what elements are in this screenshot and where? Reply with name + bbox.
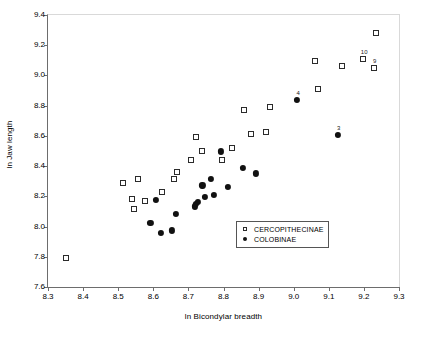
y-axis-label: ln Jaw length: [0, 0, 18, 288]
data-point-label: 9: [373, 58, 376, 64]
x-axis-tick-label: 9.1: [323, 292, 334, 301]
x-axis-tick-mark: [399, 287, 400, 291]
x-axis-tick-mark: [294, 287, 295, 291]
data-point-cercopithecinae: [63, 255, 69, 261]
data-point-cercopithecinae: [248, 131, 254, 137]
data-point-cercopithecinae: [312, 58, 318, 64]
data-point-colobinae: [253, 170, 259, 176]
data-point-label: 4: [297, 90, 300, 96]
x-axis-tick-mark: [83, 287, 84, 291]
data-point-colobinae: [153, 197, 159, 203]
legend-entry-colobinae: COLOBINAE: [240, 234, 324, 244]
data-point-cercopithecinae: [159, 189, 165, 195]
data-point-cercopithecinae: [339, 63, 345, 69]
y-axis-tick-label: 8.2: [34, 191, 45, 200]
data-point-colobinae: [218, 148, 224, 154]
x-axis-tick-label: 8.3: [42, 292, 53, 301]
data-point-colobinae: [334, 132, 340, 138]
y-axis-tick-label: 9.0: [34, 70, 45, 79]
data-point-cercopithecinae: [241, 107, 247, 113]
x-axis-tick-label: 8.4: [78, 292, 89, 301]
x-axis-tick-label: 8.8: [218, 292, 229, 301]
x-axis-tick-label: 8.6: [148, 292, 159, 301]
data-point-colobinae: [225, 183, 231, 189]
y-axis-tick-label: 8.0: [34, 222, 45, 231]
x-axis-tick-mark: [364, 287, 365, 291]
y-axis-tick-label: 7.8: [34, 252, 45, 261]
data-point-cercopithecinae: [142, 198, 148, 204]
x-axis-tick-mark: [48, 287, 49, 291]
data-point-colobinae: [240, 165, 246, 171]
y-axis-tick-label: 8.6: [34, 131, 45, 140]
data-point-cercopithecinae: [373, 30, 379, 36]
data-point-cercopithecinae: [120, 180, 126, 186]
data-point-cercopithecinae: [219, 157, 225, 163]
plot-area: 7.67.88.08.28.48.68.89.09.29.48.38.48.58…: [48, 15, 399, 287]
data-point-cercopithecinae: [193, 134, 199, 140]
data-point-cercopithecinae: [229, 145, 235, 151]
y-axis-tick-label: 8.8: [34, 101, 45, 110]
data-point-colobinae: [195, 199, 201, 205]
y-axis-tick-label: 9.4: [34, 10, 45, 19]
plot-frame: 7.67.88.08.28.48.68.89.09.29.48.38.48.58…: [47, 14, 400, 288]
data-point-label: 3: [337, 125, 340, 131]
x-axis-tick-mark: [224, 287, 225, 291]
legend-label-colobinae: COLOBINAE: [254, 236, 296, 243]
x-axis-tick-label: 9.0: [288, 292, 299, 301]
y-axis-tick-label: 9.2: [34, 40, 45, 49]
data-point-colobinae: [211, 192, 217, 198]
data-point-label: 10: [361, 49, 368, 55]
data-point-cercopithecinae: [174, 169, 180, 175]
legend-entry-cercopithecinae: CERCOPITHECINAE: [240, 224, 324, 234]
data-point-colobinae: [173, 211, 179, 217]
data-point-cercopithecinae: [371, 65, 377, 71]
data-point-colobinae: [199, 182, 205, 188]
x-axis-tick-mark: [188, 287, 189, 291]
data-point-cercopithecinae: [135, 176, 141, 182]
legend-key-open-square-icon: [240, 227, 250, 232]
x-axis-tick-label: 8.9: [253, 292, 264, 301]
y-axis-tick-label: 7.6: [34, 282, 45, 291]
x-axis-tick-label: 8.7: [183, 292, 194, 301]
x-axis-label: ln Bicondylar breadth: [47, 312, 400, 321]
data-point-cercopithecinae: [131, 206, 137, 212]
data-point-cercopithecinae: [360, 56, 366, 62]
legend-key-filled-circle-icon: [240, 237, 250, 242]
y-axis-label-text: ln Jaw length: [5, 120, 14, 168]
data-point-colobinae: [294, 97, 300, 103]
data-point-colobinae: [158, 230, 164, 236]
x-axis-tick-mark: [118, 287, 119, 291]
scatter-plot-figure: ln Jaw length 7.67.88.08.28.48.68.89.09.…: [0, 0, 430, 339]
data-point-cercopithecinae: [267, 104, 273, 110]
legend-label-cercopithecinae: CERCOPITHECINAE: [254, 226, 324, 233]
data-point-colobinae: [202, 194, 208, 200]
x-axis-tick-mark: [329, 287, 330, 291]
data-point-cercopithecinae: [315, 86, 321, 92]
y-axis-tick-label: 8.4: [34, 161, 45, 170]
data-point-colobinae: [168, 227, 174, 233]
x-axis-tick-mark: [259, 287, 260, 291]
data-point-cercopithecinae: [129, 196, 135, 202]
data-point-cercopithecinae: [188, 157, 194, 163]
data-point-cercopithecinae: [199, 148, 205, 154]
data-point-colobinae: [147, 220, 153, 226]
x-axis-tick-label: 9.3: [393, 292, 404, 301]
data-point-cercopithecinae: [263, 129, 269, 135]
x-axis-tick-mark: [153, 287, 154, 291]
data-point-colobinae: [208, 175, 214, 181]
data-point-cercopithecinae: [171, 176, 177, 182]
x-axis-tick-label: 8.5: [113, 292, 124, 301]
legend-box: CERCOPITHECINAE COLOBINAE: [236, 221, 329, 248]
x-axis-tick-label: 9.2: [358, 292, 369, 301]
